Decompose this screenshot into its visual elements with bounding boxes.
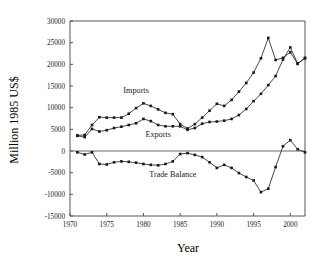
data-point <box>113 161 116 164</box>
data-point <box>172 113 175 116</box>
y-tick-label: 20000 <box>47 61 65 69</box>
data-point <box>98 130 101 133</box>
data-point <box>274 75 277 78</box>
chart-figure: Million 1985 US$ Year 300002500020000150… <box>0 0 324 260</box>
data-point <box>245 176 248 179</box>
x-axis-title: Year <box>177 241 199 255</box>
data-point <box>179 125 182 128</box>
y-axis: 300002500020000150001000050000-5000-1000… <box>45 18 73 221</box>
data-point <box>179 153 182 156</box>
data-point <box>91 128 94 131</box>
data-point <box>142 163 145 166</box>
data-point <box>289 46 292 49</box>
data-point <box>98 163 101 166</box>
series-line <box>77 47 305 137</box>
data-point <box>142 102 145 105</box>
x-tick-label: 1975 <box>100 221 115 229</box>
data-point <box>120 116 123 119</box>
series-label-exports: Exports <box>145 130 170 139</box>
data-point <box>238 172 241 175</box>
data-point <box>216 120 219 123</box>
y-tick-label: 25000 <box>47 39 65 47</box>
axis-frame <box>70 21 305 216</box>
y-tick-label: 0 <box>61 148 65 156</box>
data-point <box>208 161 211 164</box>
data-point <box>208 109 211 112</box>
series-label-trade-balance: Trade Balance <box>149 170 197 179</box>
data-point <box>120 125 123 128</box>
data-point <box>76 151 79 154</box>
series-line <box>77 38 305 135</box>
x-tick-label: 1990 <box>210 221 225 229</box>
y-tick-label: -10000 <box>45 191 66 199</box>
data-point <box>245 82 248 85</box>
data-point <box>149 120 152 123</box>
data-point <box>142 118 145 121</box>
data-point <box>238 114 241 117</box>
data-point <box>135 161 138 164</box>
plot-frame <box>70 21 305 216</box>
data-point <box>282 58 285 61</box>
data-point <box>274 59 277 62</box>
data-point <box>282 145 285 148</box>
data-point <box>164 163 167 166</box>
data-point <box>91 151 94 154</box>
data-point <box>289 139 292 142</box>
data-point <box>83 136 86 139</box>
y-tick-label: 15000 <box>47 83 65 91</box>
data-point <box>230 118 233 121</box>
data-point <box>216 102 219 105</box>
y-tick-label: 10000 <box>47 104 65 112</box>
data-point <box>267 187 270 190</box>
data-point <box>304 57 307 60</box>
x-tick-label: 1970 <box>63 221 78 229</box>
data-point <box>230 167 233 170</box>
y-tick-label: -15000 <box>45 213 66 221</box>
data-point <box>260 191 263 194</box>
data-point <box>127 161 130 164</box>
data-point <box>260 93 263 96</box>
x-tick-label: 1985 <box>173 221 188 229</box>
data-point <box>223 105 226 108</box>
data-point <box>201 122 204 125</box>
data-point <box>113 127 116 130</box>
data-point <box>304 151 307 154</box>
data-point <box>91 124 94 127</box>
series-line <box>77 140 305 192</box>
data-point <box>127 124 130 127</box>
data-point <box>194 154 197 157</box>
data-point <box>164 112 167 115</box>
data-point <box>98 116 101 119</box>
data-point <box>113 116 116 119</box>
trade-line-chart: Million 1985 US$ Year 300002500020000150… <box>0 0 324 260</box>
series-imports <box>76 37 306 137</box>
data-point <box>230 99 233 102</box>
data-point <box>216 167 219 170</box>
data-point <box>186 152 189 155</box>
x-tick-label: 1980 <box>136 221 151 229</box>
data-point <box>105 129 108 132</box>
data-point <box>157 108 160 111</box>
data-point <box>252 71 255 74</box>
data-point <box>296 62 299 65</box>
data-point <box>289 51 292 54</box>
x-axis: 1970197519801985199019952000 <box>63 213 298 229</box>
data-point <box>238 90 241 93</box>
y-tick-label: 5000 <box>51 126 66 134</box>
data-point <box>157 164 160 167</box>
data-point <box>105 163 108 166</box>
data-point <box>164 125 167 128</box>
data-point <box>194 123 197 126</box>
data-point <box>186 128 189 131</box>
series-exports <box>76 46 306 138</box>
data-point <box>245 108 248 111</box>
data-point <box>127 112 130 115</box>
x-tick-label: 1995 <box>246 221 261 229</box>
series-label-imports: Imports <box>123 86 148 95</box>
data-point <box>105 116 108 119</box>
data-point <box>157 124 160 127</box>
data-point <box>201 156 204 159</box>
data-point <box>252 100 255 103</box>
data-point <box>149 164 152 167</box>
data-point <box>172 125 175 128</box>
